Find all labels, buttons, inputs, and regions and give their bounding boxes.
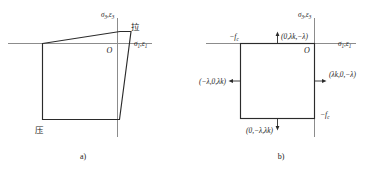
panel-b-vertical-axis-label: σ3,ε3 [298,11,312,20]
panel-b-strength-bottom-right: −fc [320,110,330,120]
panel-b-normal-vectors [229,32,327,131]
panel-b-origin-label: O [304,46,310,55]
panel-a-compression-label: 压 [35,125,44,135]
panel-a-origin-label: O [107,46,113,55]
left-normal-arrowhead [229,79,234,83]
panel-a: σ3,ε3 σ1,ε1 O 拉 压 a) [8,11,152,161]
panel-a-caption: a) [80,152,87,161]
panel-b-top-normal-label: (0,λk,−λ) [281,32,309,41]
panel-b-bottom-normal-label: (0,−λ,λk) [246,126,274,135]
right-normal-arrowhead [322,79,327,83]
panel-b-strength-top-left: −fc [229,32,239,42]
panel-b-caption: b) [278,152,285,161]
top-normal-arrowhead [276,32,280,37]
panel-a-horizontal-axis-label: σ1,ε1 [134,40,147,49]
panel-b: σ3,ε3 σ1,ε1 O −fc −fc (0,λk,−λ) (−λ,0,λk… [199,11,357,161]
panel-b-horizontal-axis-label: σ1,ε1 [338,40,351,49]
bottom-normal-arrowhead [276,126,280,131]
panel-a-tension-label: 拉 [131,22,140,32]
figure-container: σ3,ε3 σ1,ε1 O 拉 压 a) [0,0,367,171]
panel-a-vertical-axis-label: σ3,ε3 [101,11,115,20]
panel-b-right-normal-label: (λk,0,−λ) [329,70,357,79]
biaxial-failure-criterion-figure: σ3,ε3 σ1,ε1 O 拉 压 a) [0,0,367,171]
panel-b-left-normal-label: (−λ,0,λk) [199,77,227,86]
